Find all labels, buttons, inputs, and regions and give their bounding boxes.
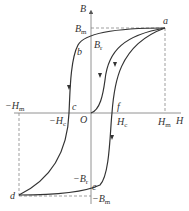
tick-negHc: −Hc [49,115,66,128]
point-b: b [77,46,82,57]
tick-negHm: −Hm [5,100,25,113]
point-d: d [10,190,16,201]
hysteresis-diagram: B H O a b c d e f Bm Br −Hm −Hc Hc Hm −B… [0,0,189,211]
tick-Bm: Bm [75,23,87,36]
point-f: f [117,101,121,112]
svg-text:−Hm: −Hm [5,100,25,113]
origin-label: O [80,114,87,125]
b-axis-label: B [80,3,86,14]
svg-text:−Hc: −Hc [49,115,66,128]
svg-text:Bm: Bm [75,23,87,36]
tick-Br: Br [94,39,103,52]
svg-text:Hm: Hm [157,116,171,129]
tick-Hc: Hc [116,116,127,129]
svg-text:−Br: −Br [73,173,89,186]
point-e: e [92,181,97,192]
tick-negBm: −Bm [92,193,111,206]
svg-text:Br: Br [94,39,103,52]
tick-Hm: Hm [157,116,171,129]
h-axis-label: H [175,115,184,126]
tick-negBr: −Br [73,173,89,186]
svg-text:Hc: Hc [116,116,127,129]
hysteresis-curve [19,28,165,195]
point-a: a [163,15,168,26]
point-c: c [72,101,77,112]
svg-text:−Bm: −Bm [92,193,111,206]
